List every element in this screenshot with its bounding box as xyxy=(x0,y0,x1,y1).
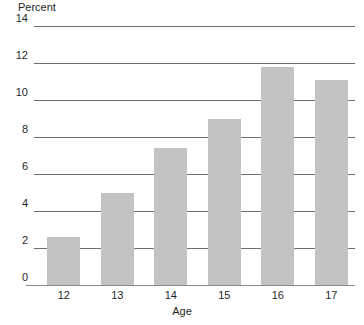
bar-series xyxy=(34,26,355,285)
y-tick-label: 4 xyxy=(22,198,28,209)
bar xyxy=(315,80,348,285)
bar-chart: Percent 02468101214 121314151617 Age xyxy=(0,0,364,325)
y-tick-label: 2 xyxy=(22,235,28,246)
plot-area: 02468101214 xyxy=(34,26,355,285)
bar xyxy=(101,193,134,286)
y-tick-label: 14 xyxy=(16,13,28,24)
y-tick-label: 6 xyxy=(22,161,28,172)
bar xyxy=(154,148,187,285)
y-tick-label: 12 xyxy=(16,50,28,61)
x-axis-line xyxy=(26,285,355,286)
bar xyxy=(47,237,80,285)
x-tick-label: 14 xyxy=(151,289,191,302)
x-tick-label: 13 xyxy=(97,289,137,302)
x-axis-title: Age xyxy=(0,305,364,318)
y-tick-label: 0 xyxy=(22,272,28,283)
bar xyxy=(208,119,241,286)
x-tick-label: 17 xyxy=(311,289,351,302)
y-tick-label: 10 xyxy=(16,87,28,98)
x-tick-label: 15 xyxy=(204,289,244,302)
x-tick-label: 12 xyxy=(44,289,84,302)
x-tick-label: 16 xyxy=(258,289,298,302)
y-tick-label: 8 xyxy=(22,124,28,135)
bar xyxy=(261,67,294,285)
